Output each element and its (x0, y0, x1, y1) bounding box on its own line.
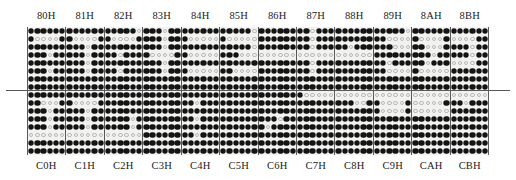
dot-on (54, 77, 58, 81)
char-cell-cbh[interactable] (451, 91, 489, 155)
dot-on (336, 61, 340, 65)
char-cell-c4h[interactable] (182, 91, 220, 155)
dot-on (381, 69, 385, 73)
dot-off (483, 93, 487, 97)
char-cell-c0h[interactable] (27, 91, 66, 155)
char-cell-82h[interactable] (105, 27, 143, 91)
dot-off (470, 53, 474, 57)
dot-on (272, 125, 276, 129)
char-cell-84h[interactable] (182, 27, 220, 91)
dot-on (41, 109, 45, 113)
dot-on (201, 77, 205, 81)
dot-on (124, 77, 128, 81)
dot-off (298, 53, 302, 57)
char-cell-8ah[interactable] (412, 27, 450, 91)
char-cell-83h[interactable] (143, 27, 181, 91)
dot-on (343, 37, 347, 41)
dot-on (444, 125, 448, 129)
char-cell-8bh[interactable] (451, 27, 489, 91)
char-cell-86h[interactable] (259, 27, 297, 91)
dot-off (400, 45, 404, 49)
dot-off (470, 61, 474, 65)
dot-off (444, 69, 448, 73)
char-cell-c5h[interactable] (220, 91, 258, 155)
dot-on (240, 141, 244, 145)
dot-on (406, 117, 410, 121)
dot-off (195, 37, 199, 41)
dot-on (131, 77, 135, 81)
dot-on (175, 149, 179, 153)
dot-on (41, 93, 45, 97)
char-cell-85h[interactable] (220, 27, 258, 91)
char-cell-89h[interactable] (374, 27, 412, 91)
dot-on (41, 141, 45, 145)
char-cell-80h[interactable] (27, 27, 66, 91)
char-cell-cah[interactable] (412, 91, 450, 155)
dot-on (99, 37, 103, 41)
dot-on (195, 125, 199, 129)
dot-on (438, 53, 442, 57)
char-cell-87h[interactable] (297, 27, 335, 91)
dot-off (201, 37, 205, 41)
dot-on (41, 45, 45, 49)
dot-on (183, 85, 187, 89)
dot-on (29, 53, 33, 57)
char-cell-c2h[interactable] (105, 91, 143, 155)
char-cell-c7h[interactable] (297, 91, 335, 155)
dot-on (157, 141, 161, 145)
dot-on (458, 85, 462, 89)
dot-on (208, 125, 212, 129)
dot-on (393, 29, 397, 33)
dot-on (278, 133, 282, 137)
dot-off (438, 45, 442, 49)
dot-on (310, 125, 314, 129)
dot-on (272, 117, 276, 121)
dot-on (298, 149, 302, 153)
dot-on (259, 93, 263, 97)
dot-on (175, 141, 179, 145)
dot-off (86, 53, 90, 57)
dot-on (54, 29, 58, 33)
dot-on (208, 117, 212, 121)
dot-on (169, 29, 173, 33)
dot-on (310, 149, 314, 153)
char-cell-81h[interactable] (66, 27, 104, 91)
char-cell-c1h[interactable] (66, 91, 104, 155)
dot-on (284, 69, 288, 73)
char-cell-c9h[interactable] (374, 91, 412, 155)
dot-on (195, 109, 199, 113)
dot-off (118, 37, 122, 41)
dot-off (310, 61, 314, 65)
dot-on (80, 53, 84, 57)
dot-on (329, 101, 333, 105)
dot-off (413, 109, 417, 113)
dot-on (131, 53, 135, 57)
dot-on (329, 125, 333, 129)
dot-on (99, 101, 103, 105)
char-cell-c3h[interactable] (143, 91, 181, 155)
dot-on (137, 77, 141, 81)
address-label-8ah: 8AH (412, 6, 451, 26)
dot-on (259, 29, 263, 33)
dot-off (438, 93, 442, 97)
dot-on (175, 29, 179, 33)
dot-off (131, 117, 135, 121)
char-cell-c8h[interactable] (335, 91, 373, 155)
dot-on (112, 61, 116, 65)
dot-off (432, 93, 436, 97)
dot-on (221, 133, 225, 137)
dot-on (272, 133, 276, 137)
dot-off (426, 93, 430, 97)
char-cell-88h[interactable] (335, 27, 373, 91)
center-divider-line (6, 90, 510, 91)
dot-on (323, 101, 327, 105)
dot-on (317, 109, 321, 113)
dot-on (163, 149, 167, 153)
char-cell-c6h[interactable] (259, 91, 297, 155)
dot-on (227, 45, 231, 49)
dot-on (444, 37, 448, 41)
dot-on (67, 77, 71, 81)
dot-on (349, 109, 353, 113)
dot-on (124, 149, 128, 153)
dot-on (157, 101, 161, 105)
